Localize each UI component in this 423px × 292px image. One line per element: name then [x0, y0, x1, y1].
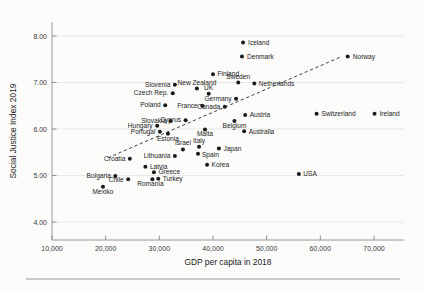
point-label: Korea — [212, 161, 230, 168]
point-marker — [252, 81, 256, 85]
y-axis-title: Social Justice Index 2019 — [8, 83, 18, 178]
point-marker — [297, 172, 301, 176]
y-axis-ticks: 4.005.006.007.008.00 — [33, 33, 56, 226]
point-label: Norway — [353, 53, 376, 61]
point-marker — [197, 145, 201, 149]
data-point: Czech Rep. — [134, 89, 175, 97]
chart-figure: 10,00020,00030,00040,00050,00060,00070,0… — [0, 0, 423, 292]
point-label: Denmark — [247, 53, 274, 60]
data-points: IcelandDenmarkNorwayFinlandSwedenNetherl… — [87, 39, 400, 195]
point-label: Croatia — [104, 155, 126, 162]
data-point: Netherlands — [252, 80, 295, 87]
point-marker — [155, 124, 159, 128]
point-label: Chile — [109, 176, 124, 183]
point-label: Romania — [137, 180, 164, 187]
data-point: Israel — [175, 139, 192, 151]
point-label: Netherlands — [259, 80, 295, 87]
point-marker — [196, 152, 200, 156]
x-tick-label-20000: 20,000 — [95, 245, 117, 252]
data-point: Belgium — [223, 119, 247, 130]
point-marker — [346, 54, 350, 58]
point-label: Iceland — [248, 39, 270, 46]
point-marker — [184, 118, 188, 122]
point-marker — [195, 87, 199, 91]
point-label: Spain — [202, 151, 219, 159]
data-point: Germany — [204, 95, 238, 103]
y-tick-label-5: 5.00 — [33, 172, 47, 179]
point-label: Australia — [249, 128, 275, 135]
y-tick-label-8: 8.00 — [33, 33, 47, 40]
point-label: UK — [204, 84, 214, 91]
point-label: Lithuania — [144, 152, 171, 159]
scatter-plot: 10,00020,00030,00040,00050,00060,00070,0… — [0, 0, 423, 292]
x-axis-ticks: 10,00020,00030,00040,00050,00060,00070,0… — [41, 236, 385, 253]
data-point: Norway — [346, 53, 376, 61]
point-marker — [152, 170, 156, 174]
data-point: Canada — [197, 103, 227, 110]
data-point: Ireland — [373, 110, 400, 117]
point-marker — [181, 147, 185, 151]
point-marker — [223, 105, 227, 109]
point-label: Germany — [204, 95, 232, 103]
point-marker — [243, 113, 247, 117]
point-marker — [373, 112, 377, 116]
point-marker — [315, 112, 319, 116]
x-tick-label-70000: 70,000 — [363, 245, 385, 252]
point-marker — [240, 54, 244, 58]
point-marker — [163, 103, 167, 107]
data-point: Australia — [242, 128, 274, 135]
y-tick-label-6: 6.00 — [33, 126, 47, 133]
point-label: Portugal — [131, 128, 156, 136]
point-label: Poland — [140, 101, 161, 108]
data-point: Switzerland — [315, 110, 356, 117]
point-label: Italy — [193, 137, 206, 145]
data-point: Korea — [205, 161, 229, 168]
x-tick-label-10000: 10,000 — [41, 245, 63, 252]
data-point: Iceland — [241, 39, 270, 46]
point-marker — [242, 129, 246, 133]
point-marker — [158, 130, 162, 134]
y-tick-label-4: 4.00 — [33, 219, 47, 226]
data-point: Spain — [196, 151, 219, 159]
x-tick-label-30000: 30,000 — [149, 245, 171, 252]
point-marker — [236, 81, 240, 85]
point-label: USA — [303, 170, 317, 177]
x-tick-label-60000: 60,000 — [310, 245, 332, 252]
point-label: Canada — [197, 103, 220, 110]
data-point: Croatia — [104, 155, 132, 162]
point-marker — [169, 119, 173, 123]
data-point: Poland — [140, 101, 167, 108]
point-marker — [171, 91, 175, 95]
point-label: Mexiko — [93, 188, 114, 195]
point-marker — [126, 177, 130, 181]
point-marker — [234, 97, 238, 101]
data-point: Lithuania — [144, 152, 177, 159]
data-point: Chile — [109, 176, 131, 183]
point-label: Japan — [223, 145, 241, 153]
data-point: Mexiko — [93, 185, 114, 196]
point-label: Czech Rep. — [134, 89, 169, 97]
data-point: Austria — [243, 111, 270, 118]
x-tick-label-50000: 50,000 — [256, 245, 278, 252]
data-point: Japan — [217, 145, 242, 153]
point-label: Austria — [250, 111, 271, 118]
point-label: Sweden — [226, 73, 250, 80]
y-tick-label-7: 7.00 — [33, 79, 47, 86]
data-point: USA — [297, 170, 318, 177]
data-point: Denmark — [240, 53, 274, 60]
point-label: Bulgaria — [87, 172, 112, 180]
point-marker — [205, 163, 209, 167]
point-label: Slovenia — [145, 81, 171, 88]
point-marker — [173, 154, 177, 158]
x-tick-label-40000: 40,000 — [202, 245, 224, 252]
point-label: Israel — [175, 139, 192, 146]
point-label: Turkey — [163, 175, 184, 183]
point-marker — [128, 157, 132, 161]
point-label: France — [177, 102, 198, 109]
axes — [52, 22, 404, 240]
point-marker — [211, 72, 215, 76]
point-marker — [143, 165, 147, 169]
data-point: Slovenia — [145, 81, 177, 88]
point-marker — [241, 41, 245, 45]
point-marker — [173, 83, 177, 87]
